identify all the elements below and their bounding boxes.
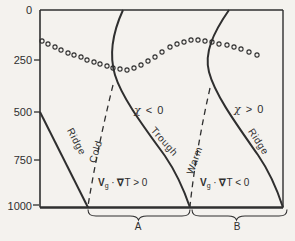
tropopause-circle xyxy=(146,59,150,63)
tropopause-circle xyxy=(46,42,50,46)
tropopause-circle xyxy=(125,68,129,72)
tropopause-circle xyxy=(247,50,251,54)
pressure-label-750: 750 xyxy=(4,155,32,166)
brace-b xyxy=(192,210,287,221)
tropopause-circle xyxy=(132,66,136,70)
tropopause-circle xyxy=(225,43,229,47)
tropopause-circle xyxy=(85,58,89,62)
tropopause-circle xyxy=(53,45,57,49)
region-b-label: B xyxy=(230,221,244,232)
tropopause-circle xyxy=(182,40,186,44)
tropopause-circle xyxy=(66,51,70,55)
tropopause-circles xyxy=(40,38,259,72)
tropopause-circle xyxy=(105,64,109,68)
advection-expression: T > 0 xyxy=(124,177,147,188)
pressure-label-0: 0 xyxy=(4,5,32,16)
warm-advection-annotation: Vg · ∇T > 0 xyxy=(98,177,147,189)
chi-symbol: χ xyxy=(134,104,142,117)
chi-relation: < 0 xyxy=(142,104,165,116)
tropopause-circle xyxy=(232,45,236,49)
advection-expression: T < 0 xyxy=(226,177,249,188)
tropopause-circle xyxy=(217,42,221,46)
chi-negative-annotation: χ < 0 xyxy=(134,104,164,117)
tropopause-circle xyxy=(203,39,207,43)
tropopause-circle xyxy=(92,60,96,64)
chi-symbol: χ xyxy=(234,103,242,116)
tropopause-circle xyxy=(189,38,193,42)
region-a-label: A xyxy=(131,221,145,232)
tropopause-circle xyxy=(239,47,243,51)
figure-canvas xyxy=(0,0,295,241)
tropopause-circle xyxy=(139,63,143,67)
pressure-label-500: 500 xyxy=(4,107,32,118)
tropopause-circle xyxy=(98,62,102,66)
tropopause-circle xyxy=(196,38,200,42)
tropopause-circle xyxy=(79,55,83,59)
chi-relation: > 0 xyxy=(242,103,265,115)
pressure-label-250: 250 xyxy=(4,55,32,66)
tropopause-circle xyxy=(175,42,179,46)
baroclinic-wave-cross-section: 0 250 500 750 1000 Ridge Cold Trough War… xyxy=(0,0,295,241)
tropopause-circle xyxy=(118,67,122,71)
tropopause-circle xyxy=(59,48,63,52)
vg-vector: V xyxy=(98,177,105,188)
tropopause-circle xyxy=(72,53,76,57)
tropopause-circle xyxy=(160,50,164,54)
chi-positive-annotation: χ > 0 xyxy=(234,103,264,116)
vg-vector: V xyxy=(200,177,207,188)
tropopause-circle xyxy=(168,45,172,49)
tropopause-circle xyxy=(255,53,259,57)
pressure-label-1000: 1000 xyxy=(4,201,32,212)
cold-advection-annotation: Vg · ∇T < 0 xyxy=(200,177,249,189)
brace-a xyxy=(88,210,190,221)
ridge-axis-left-line xyxy=(40,112,88,208)
tropopause-circle xyxy=(153,55,157,59)
